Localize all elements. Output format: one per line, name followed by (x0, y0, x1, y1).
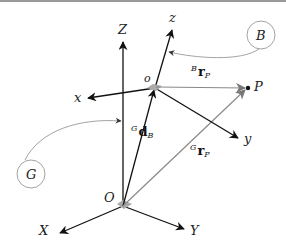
x-axis (88, 88, 155, 98)
point-P-label: P (253, 79, 263, 94)
callout-G-label: G (26, 167, 36, 182)
top-border (0, 0, 286, 2)
d-B-label: GdB (131, 124, 153, 140)
y-axis-label: y (243, 131, 252, 146)
r-P-global-label: GrP (190, 143, 210, 159)
global-vectors (123, 90, 245, 206)
callout-B: B (169, 21, 275, 58)
callout-B-label: B (255, 28, 266, 43)
r-P-body-label: BrP (190, 64, 211, 80)
body-origin-label: o (144, 72, 151, 85)
r-P-body-vector (156, 87, 245, 88)
Y-axis (123, 206, 184, 229)
callout-G: G (17, 121, 121, 188)
Y-axis-label: Y (190, 223, 200, 238)
callout-G-arrow (25, 121, 121, 160)
callout-B-arrow (169, 49, 259, 58)
global-origin-label: O (104, 190, 115, 205)
global-frame: Z X Y O (38, 22, 200, 238)
r-P-global-vector (123, 90, 245, 206)
y-axis (155, 88, 238, 138)
Z-axis-label: Z (117, 22, 128, 37)
body-frame: z x y o (74, 10, 252, 146)
d-B-vector (123, 90, 154, 206)
X-axis-label: X (38, 223, 49, 238)
z-axis-label: z (168, 10, 176, 25)
point-P-group: P (156, 79, 263, 94)
X-axis (60, 206, 123, 233)
vector-labels: GdB GrP BrP (131, 64, 211, 159)
point-P-dot (246, 86, 250, 90)
x-axis-label: x (74, 90, 82, 105)
z-axis (155, 30, 172, 88)
coordinate-frames-diagram: Z X Y O z x y o P GdB GrP BrP (0, 0, 286, 247)
